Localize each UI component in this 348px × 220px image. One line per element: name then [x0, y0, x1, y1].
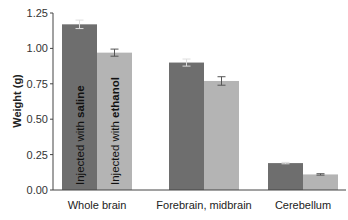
y-axis-label: Weight (g) — [11, 74, 23, 128]
bar-ethanol — [303, 174, 338, 190]
legend-label-saline: Injected with saline — [74, 85, 86, 185]
bar-saline — [169, 63, 204, 190]
x-category-label: Whole brain — [68, 199, 127, 211]
x-category-label: Cerebellum — [275, 199, 331, 211]
bar-saline — [268, 163, 303, 190]
x-category-label: Forebrain, midbrain — [156, 199, 251, 211]
y-tick-label: 1.25 — [27, 7, 48, 19]
legend-label-ethanol: Injected with ethanol — [109, 77, 121, 185]
y-tick-label: 0.25 — [27, 149, 48, 161]
y-tick-label: 0.50 — [27, 113, 48, 125]
bar-ethanol — [204, 81, 239, 190]
y-tick-label: 0.00 — [27, 184, 48, 196]
y-axis: 0.000.250.500.751.001.25 — [27, 7, 53, 196]
bar-chart: 0.000.250.500.751.001.25 Injected with s… — [0, 0, 348, 220]
bars: Injected with salineInjected with ethano… — [62, 20, 338, 190]
y-tick-label: 0.75 — [27, 78, 48, 90]
y-tick-label: 1.00 — [27, 42, 48, 54]
x-axis: Whole brainForebrain, midbrainCerebellum — [53, 190, 346, 211]
